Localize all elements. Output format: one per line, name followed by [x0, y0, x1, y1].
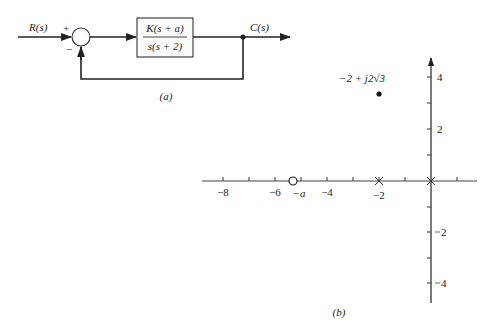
block-diagram: R(s) + − K(s + a) s(s + 2) C(s) (a) — [18, 18, 290, 103]
design-point-marker — [376, 91, 381, 96]
design-point-label: −2 + j2√3 — [339, 72, 385, 84]
s-plane-plot: −8 −6 −4 −2 4 2 2 4 − — [202, 58, 477, 319]
summing-junction — [72, 28, 90, 46]
real-tick-label: −6 — [269, 186, 281, 198]
imag-tick-label: 2 — [441, 226, 447, 238]
output-label: C(s) — [250, 21, 269, 34]
zero-marker — [289, 177, 297, 185]
input-label: R(s) — [28, 21, 48, 34]
figure-canvas: R(s) + − K(s + a) s(s + 2) C(s) (a) — [0, 0, 495, 326]
real-tick-label: −2 — [373, 189, 385, 201]
plus-sign: + — [63, 22, 69, 34]
imag-tick-label: 4 — [441, 277, 447, 289]
zero-label: −a — [293, 187, 306, 199]
tf-denominator: s(s + 2) — [148, 40, 183, 53]
caption-b: (b) — [333, 306, 346, 319]
real-tick-label: −4 — [321, 186, 333, 198]
tf-numerator: K(s + a) — [145, 22, 184, 35]
caption-a: (a) — [160, 90, 173, 103]
imag-tick-label: 4 — [437, 71, 443, 83]
imag-tick-label: 2 — [437, 123, 443, 135]
real-tick-label: −8 — [217, 186, 229, 198]
minus-sign: − — [66, 43, 72, 55]
